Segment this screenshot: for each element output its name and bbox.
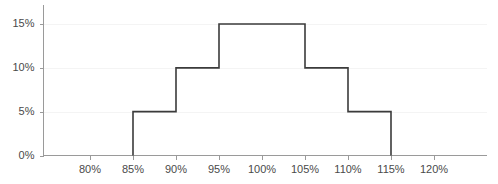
x-tick-label: 80% xyxy=(79,163,101,175)
distribution-step-line xyxy=(133,24,391,156)
x-tick-label: 115% xyxy=(377,163,405,175)
y-tick-label: 0% xyxy=(19,149,35,161)
axes-group xyxy=(44,5,488,156)
y-tick-label: 5% xyxy=(19,105,35,117)
x-tick-label: 105% xyxy=(291,163,319,175)
x-tick-label: 110% xyxy=(334,163,362,175)
x-tick-label: 95% xyxy=(208,163,230,175)
x-tick-label: 85% xyxy=(122,163,144,175)
gridlines-group xyxy=(44,25,488,113)
histogram-chart: 0%5%10%15% 80%85%90%95%100%105%110%115%1… xyxy=(0,0,498,184)
y-tick-label: 10% xyxy=(12,61,34,73)
x-tick-label: 120% xyxy=(420,163,448,175)
y-tick-label: 15% xyxy=(12,17,34,29)
y-axis-tick-labels: 0%5%10%15% xyxy=(12,17,34,161)
x-axis-tick-labels: 80%85%90%95%100%105%110%115%120% xyxy=(79,163,448,175)
x-tick-label: 100% xyxy=(248,163,276,175)
chart-canvas: 0%5%10%15% 80%85%90%95%100%105%110%115%1… xyxy=(0,0,498,184)
x-axis-ticks xyxy=(91,156,435,160)
x-tick-label: 90% xyxy=(165,163,187,175)
